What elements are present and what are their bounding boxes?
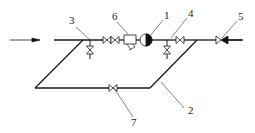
label-7: 7: [131, 116, 137, 128]
gate-valve-b: [111, 37, 119, 44]
label-4: 4: [188, 7, 194, 19]
inlet-flow-arrow: [10, 38, 40, 42]
label-6: 6: [112, 10, 118, 22]
gate-valve-a: [103, 37, 111, 44]
label-5: 5: [238, 10, 244, 22]
label-1: 1: [164, 9, 170, 21]
label-2: 2: [188, 104, 194, 116]
gate-valve-c: [176, 37, 184, 44]
bypass-pipe: [35, 40, 197, 88]
check-valve-5: [216, 36, 228, 44]
leader-lines: [76, 18, 237, 117]
filter-6: [124, 35, 136, 50]
label-3: 3: [69, 14, 75, 26]
drain-valve-3: [87, 40, 94, 59]
drain-valve-4: [164, 40, 171, 59]
piping-diagram: 3 6 1 4 5 2 7: [0, 0, 255, 133]
